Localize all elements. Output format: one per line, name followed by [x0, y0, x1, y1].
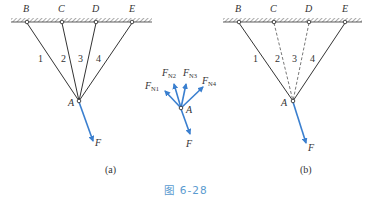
joint-label-b: A: [280, 97, 288, 108]
support-label-d: D: [91, 3, 100, 14]
force-arrow-b: [293, 102, 306, 143]
support-label-e2: E: [341, 3, 348, 14]
support-label-b: B: [23, 3, 29, 14]
bar-label-2: 2: [61, 53, 66, 64]
panel-label-a: (a): [105, 164, 116, 176]
support-label-d2: D: [304, 3, 313, 14]
support-label-b2: B: [235, 3, 241, 14]
force-label-fn3: FN3: [182, 67, 197, 79]
joint-label-fbd: A: [185, 104, 193, 115]
bar-label-1b: 1: [253, 53, 258, 64]
joint-fbd: [179, 106, 183, 110]
support-label-c: C: [58, 3, 65, 14]
force-label-fn2: FN2: [161, 67, 176, 79]
bar-label-2b: 2: [275, 53, 280, 64]
reaction-arrows: [165, 84, 203, 108]
panel-b: B C D E 1 2 3 4 A F (b): [223, 3, 362, 176]
support-label-c2: C: [270, 3, 277, 14]
joint-label-a: A: [67, 97, 75, 108]
figure-caption: 图 6-28: [0, 182, 372, 197]
bar-label-4b: 4: [310, 53, 315, 64]
panel-a: B C D E 1 2 3 4 A F (a): [11, 3, 152, 176]
ceiling-support-b: [223, 18, 362, 22]
panel-label-b: (b): [300, 164, 312, 176]
force-label-a: F: [94, 137, 102, 148]
joint-b: [291, 99, 295, 103]
force-label-fn1: FN1: [144, 80, 159, 92]
free-body-diagram: FN1 FN2 FN3 FN4 A F: [144, 67, 217, 149]
force-label-fbd: F: [185, 138, 193, 149]
force-label-b: F: [307, 142, 315, 153]
force-label-fn4: FN4: [201, 75, 217, 87]
bar-label-3b: 3: [292, 53, 297, 64]
bar-label-4: 4: [96, 53, 101, 64]
joint-a: [77, 99, 81, 103]
bar-label-3: 3: [78, 53, 83, 64]
bar-label-1: 1: [38, 53, 43, 64]
figure-canvas: B C D E 1 2 3 4 A F (a) FN1 FN2 FN3 FN4 …: [0, 0, 372, 201]
force-arrow-a: [79, 102, 93, 141]
support-label-e: E: [128, 3, 135, 14]
